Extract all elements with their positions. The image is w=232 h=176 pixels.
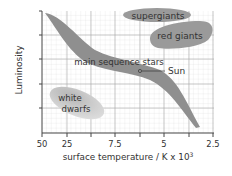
label-white-dwarfs-line1: white <box>58 93 82 103</box>
x-tick-25: 25 <box>62 139 73 149</box>
label-red-giants: red giants <box>157 31 203 41</box>
label-sun: Sun <box>168 66 185 76</box>
label-white-dwarfs-line2: dwarfs <box>62 104 91 114</box>
y-axis-label: Luminosity <box>14 45 24 95</box>
x-tick-7-5: 7.5 <box>108 139 121 149</box>
label-supergiants: supergiants <box>132 11 185 21</box>
x-tick-2-5: 2.5 <box>206 139 219 149</box>
hr-diagram: supergiants red giants main sequence sta… <box>0 0 232 176</box>
x-axis-label: surface temperature / K x 103 <box>63 151 194 162</box>
x-tick-50: 50 <box>37 139 48 149</box>
label-main-sequence: main sequence stars <box>74 57 164 67</box>
x-tick-5: 5 <box>161 139 166 149</box>
